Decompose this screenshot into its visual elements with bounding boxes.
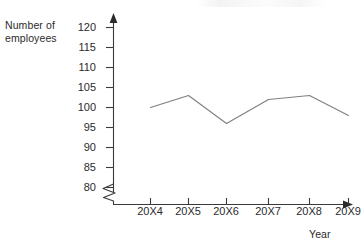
- y-axis: [103, 13, 117, 205]
- data-series-line: [151, 96, 349, 124]
- x-axis: [113, 198, 353, 208]
- y-axis-ticks: [106, 28, 113, 188]
- line-chart: Number of employees Year 120 115 110 105…: [0, 0, 362, 248]
- plot-area: [0, 0, 362, 248]
- x-axis-ticks: [151, 198, 349, 205]
